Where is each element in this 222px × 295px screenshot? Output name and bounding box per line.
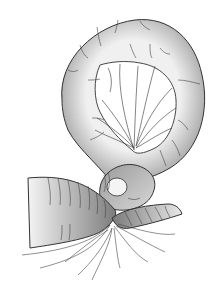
bowel-loop xyxy=(62,20,205,188)
illustration xyxy=(0,0,222,295)
twisted-bowel-drawing xyxy=(0,0,222,295)
